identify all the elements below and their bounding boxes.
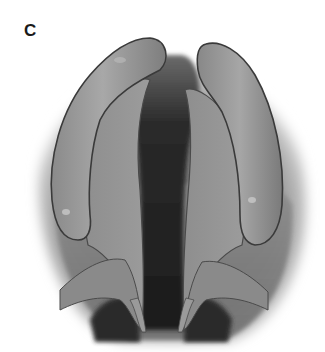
anatomical-figure: C xyxy=(0,0,325,352)
anatomical-illustration xyxy=(0,0,325,352)
